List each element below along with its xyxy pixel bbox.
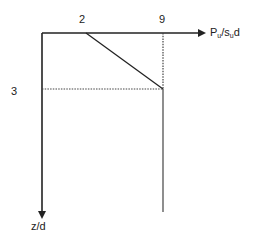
x-axis-label: Pu/sud bbox=[210, 27, 240, 39]
tick-label-3: 3 bbox=[11, 86, 17, 97]
x-label-s: /s bbox=[221, 26, 230, 38]
resistance-line-diagonal bbox=[86, 33, 163, 89]
x-label-d: d bbox=[234, 26, 240, 38]
tick-label-9: 9 bbox=[159, 14, 165, 25]
z-axis-label: z/d bbox=[31, 221, 46, 232]
tick-label-2: 2 bbox=[79, 14, 85, 25]
